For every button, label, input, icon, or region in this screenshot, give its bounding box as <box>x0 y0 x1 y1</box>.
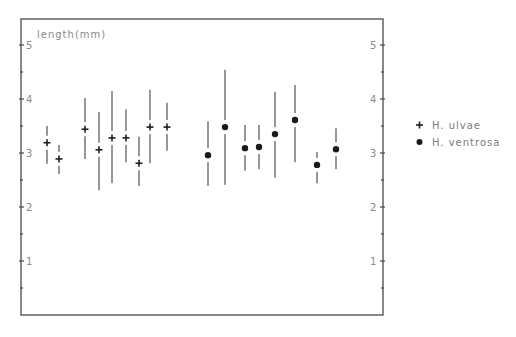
plus-marker-icon <box>44 139 51 146</box>
data-point <box>242 125 248 171</box>
plus-marker-icon <box>147 124 154 131</box>
data-point <box>333 128 339 169</box>
y-tick-label: 4 <box>370 94 376 105</box>
plus-marker-icon <box>56 155 63 162</box>
dot-marker-icon <box>292 117 298 123</box>
data-point <box>82 98 89 159</box>
y-tick-label: 5 <box>370 40 376 51</box>
dot-marker-icon <box>417 139 423 145</box>
dot-marker-icon <box>242 145 248 151</box>
data-point <box>292 85 298 162</box>
plus-marker-icon <box>109 134 116 141</box>
dot-marker-icon <box>333 146 339 152</box>
data-point <box>256 125 262 169</box>
y-tick-label: 3 <box>370 148 376 159</box>
y-axis-title: length(mm) <box>37 29 106 40</box>
plus-marker-icon <box>96 146 103 153</box>
data-series <box>44 70 340 190</box>
dot-marker-icon <box>314 162 320 168</box>
series-h-ventrosa <box>205 70 339 186</box>
y-tick-label: 5 <box>26 40 32 51</box>
dot-marker-icon <box>222 124 228 130</box>
data-point <box>56 145 63 174</box>
plus-marker-icon <box>136 160 143 167</box>
data-point <box>164 103 171 151</box>
data-point <box>44 126 51 164</box>
dot-marker-icon <box>205 152 211 158</box>
plus-marker-icon <box>82 126 89 133</box>
data-point <box>314 152 320 183</box>
data-point <box>136 137 143 186</box>
error-bar-chart: 12345 12345 length(mm) H. ulvae H. ventr… <box>0 0 516 337</box>
legend-label: H. ventrosa <box>432 137 500 148</box>
y-tick-label: 2 <box>26 202 32 213</box>
data-point <box>272 92 278 178</box>
data-point <box>96 112 103 190</box>
plus-marker-icon <box>164 124 171 131</box>
y-tick-label: 2 <box>370 202 376 213</box>
data-point <box>147 90 154 163</box>
data-point <box>205 121 211 186</box>
y-tick-label: 1 <box>370 256 376 267</box>
dot-marker-icon <box>256 144 262 150</box>
legend-item-h-ulvae: H. ulvae <box>416 120 481 131</box>
y-tick-label: 1 <box>26 256 32 267</box>
plot-frame <box>21 19 383 315</box>
y-tick-label: 4 <box>26 94 32 105</box>
series-h-ulvae <box>44 90 171 190</box>
plus-marker-icon <box>416 122 423 129</box>
plus-marker-icon <box>123 134 130 141</box>
legend-label: H. ulvae <box>432 120 481 131</box>
legend-item-h-ventrosa: H. ventrosa <box>417 137 501 148</box>
dot-marker-icon <box>272 131 278 137</box>
y-tick-label: 3 <box>26 148 32 159</box>
data-point <box>222 70 228 185</box>
data-point <box>123 109 130 162</box>
data-point <box>109 91 116 183</box>
legend: H. ulvae H. ventrosa <box>416 120 500 148</box>
